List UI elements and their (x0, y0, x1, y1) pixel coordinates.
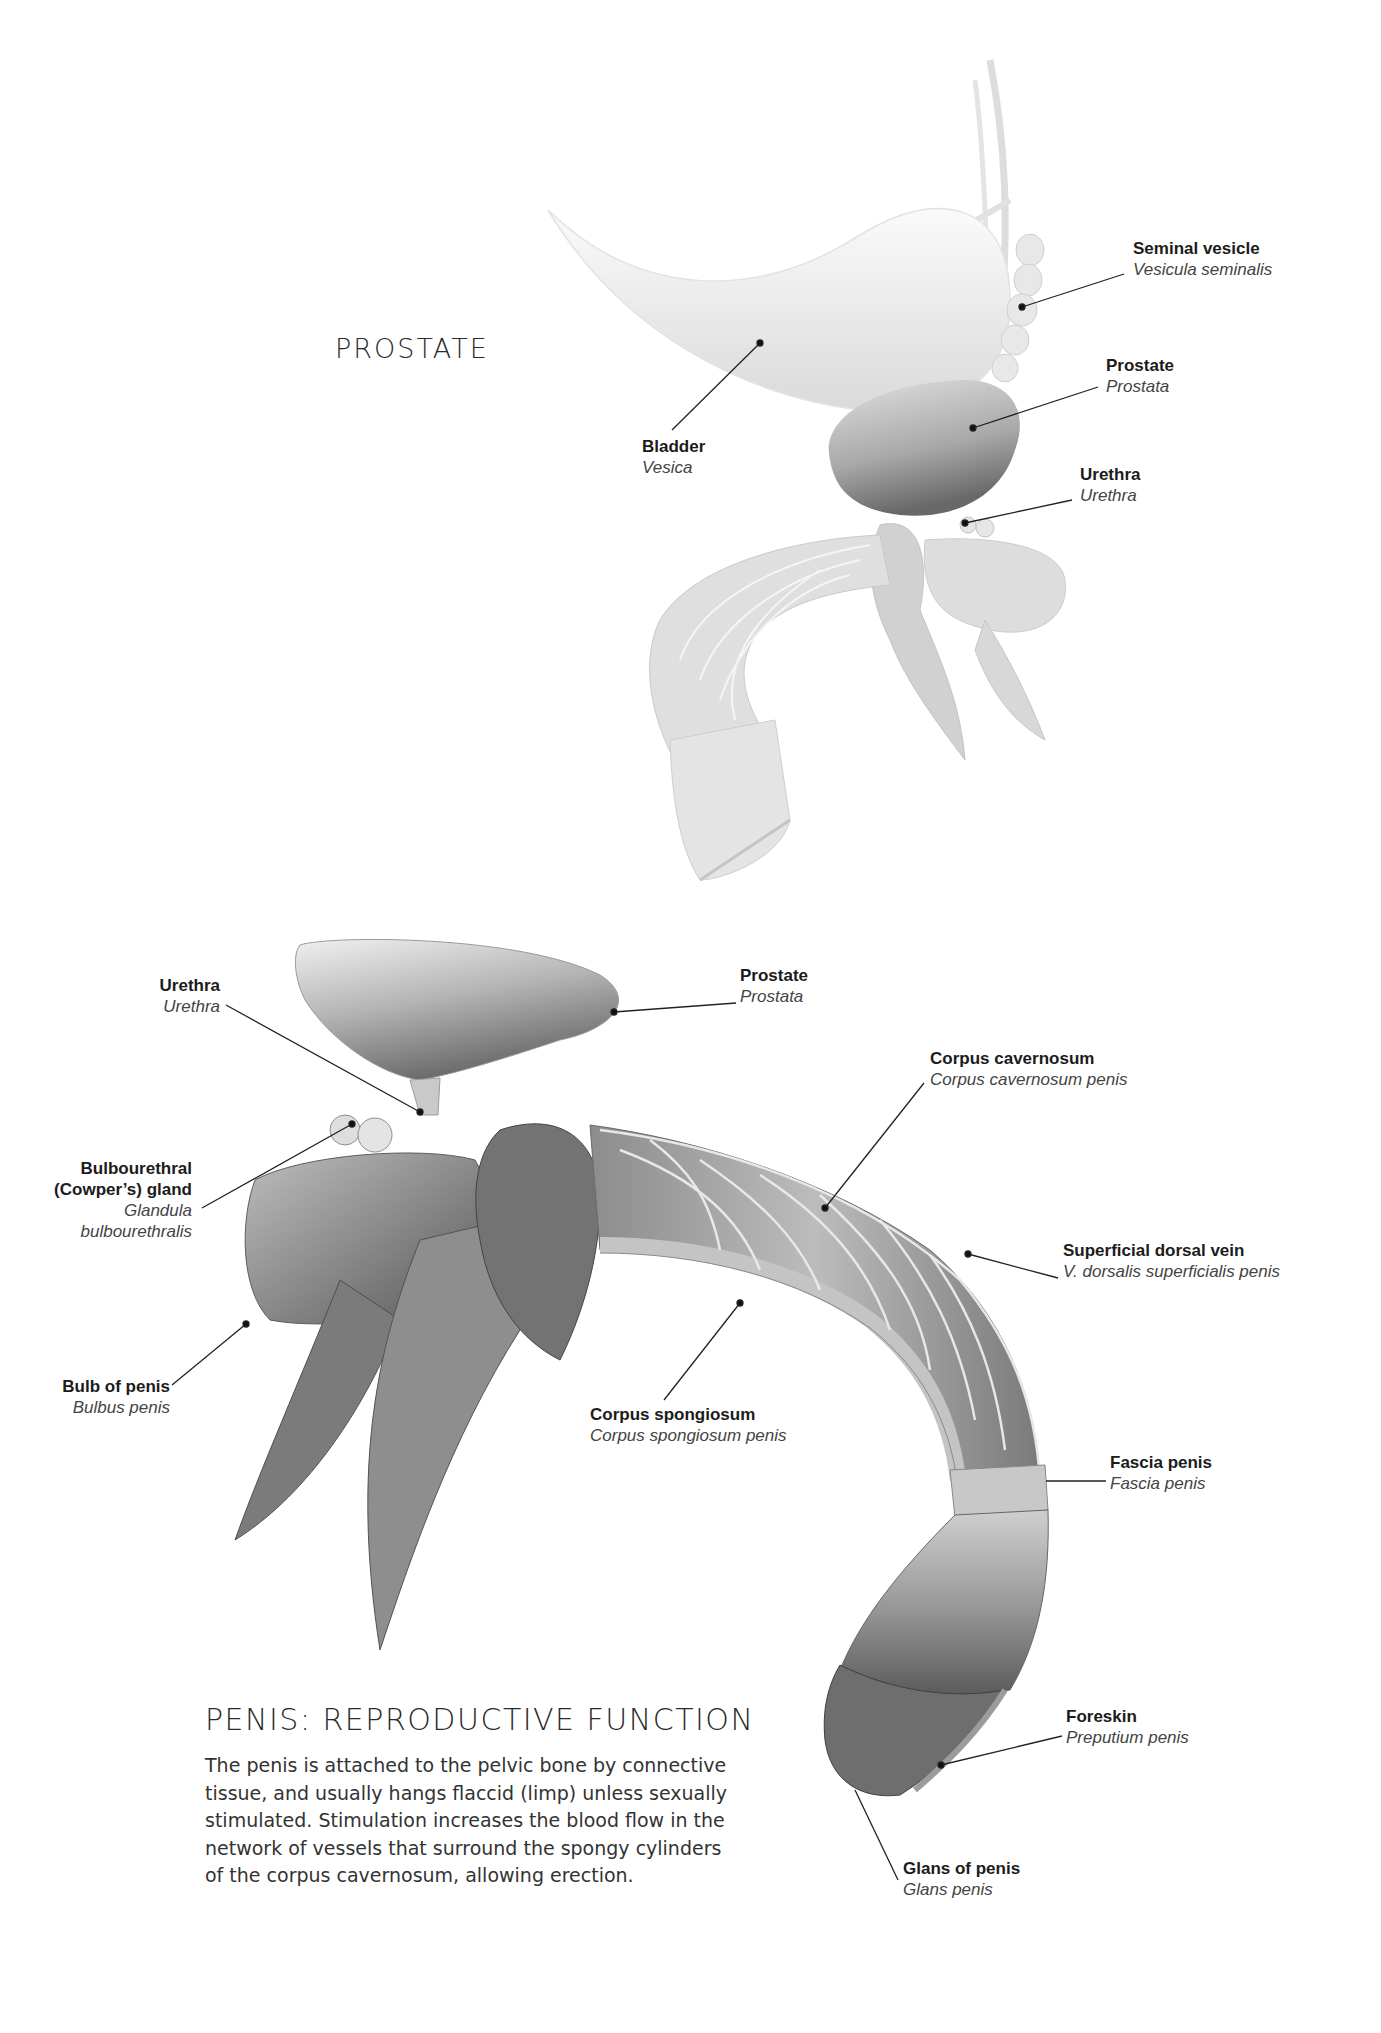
label-latin: Corpus spongiosum penis (590, 1425, 787, 1446)
body-line: The penis is attached to the pelvic bone… (205, 1752, 725, 1780)
label-latin: Corpus cavernosum penis (930, 1069, 1127, 1090)
label-name: Corpus cavernosum (930, 1048, 1127, 1069)
label-name: Prostate (1106, 355, 1174, 376)
label-latin: Prostata (1106, 376, 1174, 397)
label-name: Urethra (1080, 464, 1140, 485)
label-foreskin: Foreskin Preputium penis (1066, 1706, 1189, 1748)
label-latin: Vesica (642, 457, 705, 478)
label-latin-line2: bulbourethralis (20, 1221, 192, 1242)
label-name: Foreskin (1066, 1706, 1189, 1727)
label-name: Seminal vesicle (1133, 238, 1272, 259)
label-name: Bladder (642, 436, 705, 457)
label-name-line2: (Cowper’s) gland (20, 1179, 192, 1200)
label-latin: V. dorsalis superficialis penis (1063, 1261, 1280, 1282)
label-latin-line1: Glandula (20, 1200, 192, 1221)
body-line: network of vessels that surround the spo… (205, 1835, 725, 1863)
label-bladder: Bladder Vesica (642, 436, 705, 478)
label-name: Bulb of penis (30, 1376, 170, 1397)
bottom-figure (235, 939, 1048, 1795)
label-name: Fascia penis (1110, 1452, 1212, 1473)
label-prostate-top: Prostate Prostata (1106, 355, 1174, 397)
label-latin: Bulbus penis (30, 1397, 170, 1418)
label-seminal-vesicle: Seminal vesicle Vesicula seminalis (1133, 238, 1272, 280)
figure-title-prostate: PROSTATE (335, 333, 489, 364)
label-latin: Fascia penis (1110, 1473, 1212, 1494)
label-bulb-of-penis: Bulb of penis Bulbus penis (30, 1376, 170, 1418)
label-bulbourethral-gland: Bulbourethral (Cowper’s) gland Glandula … (20, 1158, 192, 1242)
label-name-line1: Bulbourethral (20, 1158, 192, 1179)
label-latin: Vesicula seminalis (1133, 259, 1272, 280)
body-line: stimulated. Stimulation increases the bl… (205, 1807, 725, 1835)
label-name: Glans of penis (903, 1858, 1020, 1879)
label-latin: Urethra (120, 996, 220, 1017)
label-latin: Glans penis (903, 1879, 1020, 1900)
label-name: Prostate (740, 965, 808, 986)
label-latin: Urethra (1080, 485, 1140, 506)
section-heading: PENIS: REPRODUCTIVE FUNCTION (205, 1702, 754, 1737)
body-line: of the corpus cavernosum, allowing erect… (205, 1862, 725, 1890)
label-name: Superficial dorsal vein (1063, 1240, 1280, 1261)
label-corpus-cavernosum: Corpus cavernosum Corpus cavernosum peni… (930, 1048, 1127, 1090)
label-name: Urethra (120, 975, 220, 996)
label-latin: Preputium penis (1066, 1727, 1189, 1748)
label-fascia-penis: Fascia penis Fascia penis (1110, 1452, 1212, 1494)
top-figure (548, 60, 1066, 880)
label-prostate-bottom: Prostate Prostata (740, 965, 808, 1007)
body-line: tissue, and usually hangs flaccid (limp)… (205, 1780, 725, 1808)
body-paragraph: The penis is attached to the pelvic bone… (205, 1752, 725, 1890)
label-superficial-dorsal-vein: Superficial dorsal vein V. dorsalis supe… (1063, 1240, 1280, 1282)
label-corpus-spongiosum: Corpus spongiosum Corpus spongiosum peni… (590, 1404, 787, 1446)
label-glans-of-penis: Glans of penis Glans penis (903, 1858, 1020, 1900)
label-latin: Prostata (740, 986, 808, 1007)
label-name: Corpus spongiosum (590, 1404, 787, 1425)
label-urethra-bottom: Urethra Urethra (120, 975, 220, 1017)
label-urethra-top: Urethra Urethra (1080, 464, 1140, 506)
